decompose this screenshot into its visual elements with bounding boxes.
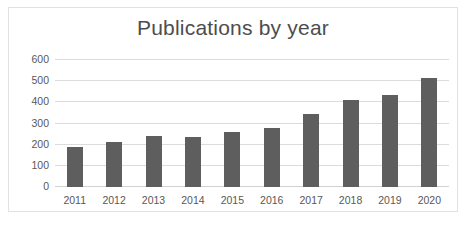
bar-2019[interactable] bbox=[382, 95, 398, 187]
y-axis-tick-label: 300 bbox=[31, 117, 49, 129]
y-axis-tick-label: 200 bbox=[31, 138, 49, 150]
bar-slot-2011: 2011 bbox=[55, 60, 94, 187]
bar-slot-2012: 2012 bbox=[94, 60, 133, 187]
plot-area: 0100200300400500600 20112012201320142015… bbox=[55, 60, 449, 187]
y-axis-tick-label: 500 bbox=[31, 74, 49, 86]
bar-2016[interactable] bbox=[264, 128, 280, 187]
x-axis-tick-label: 2013 bbox=[142, 194, 165, 206]
x-axis-tick-label: 2012 bbox=[102, 194, 125, 206]
chart-title: Publications by year bbox=[9, 16, 457, 40]
y-axis-tick-label: 600 bbox=[31, 53, 49, 65]
bar-2015[interactable] bbox=[224, 132, 240, 187]
x-axis-tick-label: 2017 bbox=[299, 194, 322, 206]
x-axis-tick-label: 2016 bbox=[260, 194, 283, 206]
bar-2013[interactable] bbox=[146, 136, 162, 187]
x-axis-tick-label: 2018 bbox=[339, 194, 362, 206]
bar-slot-2015: 2015 bbox=[213, 60, 252, 187]
bar-slot-2017: 2017 bbox=[291, 60, 330, 187]
x-axis-tick-label: 2014 bbox=[181, 194, 204, 206]
y-axis-tick-label: 0 bbox=[43, 180, 49, 192]
bar-slot-2013: 2013 bbox=[134, 60, 173, 187]
bar-2017[interactable] bbox=[303, 114, 319, 187]
bar-2018[interactable] bbox=[343, 100, 359, 187]
bar-slot-2020: 2020 bbox=[410, 60, 449, 187]
x-axis-tick-label: 2020 bbox=[418, 194, 441, 206]
bar-2014[interactable] bbox=[185, 137, 201, 187]
bar-slot-2016: 2016 bbox=[252, 60, 291, 187]
x-axis-tick-label: 2019 bbox=[378, 194, 401, 206]
bar-slot-2014: 2014 bbox=[173, 60, 212, 187]
bar-slot-2019: 2019 bbox=[370, 60, 409, 187]
y-axis-tick-label: 400 bbox=[31, 95, 49, 107]
bars-group: 2011201220132014201520162017201820192020 bbox=[55, 60, 449, 187]
chart-container: Publications by year 0100200300400500600… bbox=[8, 7, 458, 212]
x-axis-tick-label: 2015 bbox=[221, 194, 244, 206]
x-axis-tick-label: 2011 bbox=[63, 194, 86, 206]
bar-slot-2018: 2018 bbox=[331, 60, 370, 187]
bar-2011[interactable] bbox=[67, 147, 83, 187]
y-axis-tick-label: 100 bbox=[31, 159, 49, 171]
bar-2020[interactable] bbox=[421, 78, 437, 187]
bar-2012[interactable] bbox=[106, 142, 122, 188]
